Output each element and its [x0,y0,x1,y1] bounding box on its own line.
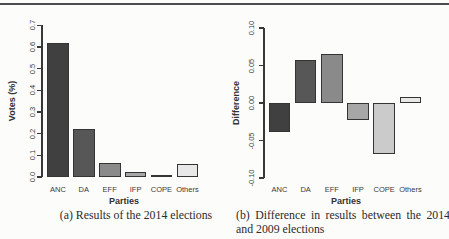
x-tick-label: EFF [103,185,117,194]
y-tick-label: 0.1 [28,150,37,160]
x-tick-label: ANC [271,185,287,194]
y-tick-label: -0.05 [247,132,256,149]
bar-anc [269,103,291,132]
y-axis-tick [37,155,42,156]
bar-eff [321,54,343,103]
top-rule [0,3,449,5]
y-axis-tick [259,65,264,66]
y-axis-tick [37,68,42,69]
y-tick-label: 0.0 [28,172,37,182]
x-tick-label: COPE [151,185,172,194]
y-tick-label: 0.6 [28,42,37,52]
y-axis-title: Difference [231,81,241,125]
y-tick-label: -0.10 [247,169,256,186]
x-axis-title: Parties [331,196,361,206]
x-tick-label: IFP [352,185,364,194]
bar-da [295,60,317,103]
y-axis-tick [259,177,264,178]
y-axis-tick [37,46,42,47]
y-axis-tick [37,90,42,91]
bar-ifp [125,172,147,177]
y-axis-tick [37,133,42,134]
y-axis-tick [259,140,264,141]
y-tick-label: 0.10 [247,21,256,36]
y-tick-label: 0.5 [28,63,37,73]
x-tick-label: DA [79,185,89,194]
subcaption-a: (a) Results of the 2014 elections [38,209,234,223]
y-tick-label: 0.05 [247,58,256,73]
y-axis-tick [259,27,264,28]
y-axis-tick [37,111,42,112]
x-axis-title: Parties [109,196,139,206]
bar-anc [47,43,69,177]
y-axis-tick [37,176,42,177]
y-axis-tick [259,102,264,103]
y-axis-title: Votes (%) [7,81,17,121]
y-axis-tick [37,25,42,26]
x-tick-label: EFF [325,185,339,194]
y-tick-label: 0.00 [247,96,256,111]
x-tick-label: COPE [374,185,395,194]
y-tick-label: 0.2 [28,128,37,138]
y-tick-label: 0.3 [28,107,37,117]
bar-cope [373,103,395,154]
subcaption-b: (b) Difference in results between the 20… [236,209,449,236]
figure-page: 0.00.10.20.30.40.50.60.7Votes (%)ANCDAEF… [0,0,449,239]
y-tick-label: 0.4 [28,85,37,95]
bar-cope [151,175,173,177]
y-tick-label: 0.7 [28,20,37,30]
x-tick-label: IFP [130,185,142,194]
x-tick-label: Others [399,185,422,194]
bar-ifp [347,103,369,120]
x-tick-label: DA [300,185,310,194]
x-tick-label: Others [176,185,199,194]
bar-others [177,164,199,177]
bar-da [73,129,95,177]
x-tick-label: ANC [50,185,66,194]
bar-others [400,97,422,103]
bar-eff [99,163,121,177]
